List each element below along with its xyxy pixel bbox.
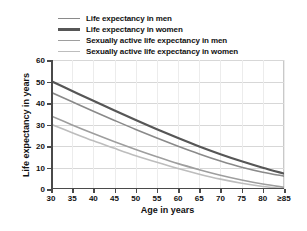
x-axis-tick-label: 70 bbox=[216, 194, 225, 203]
y-axis-tick-mark bbox=[47, 125, 51, 127]
vertical-gridline bbox=[284, 60, 285, 189]
y-axis-tick-label: 20 bbox=[36, 142, 45, 151]
x-axis-tick-mark bbox=[178, 189, 180, 193]
y-axis-tick-label: 60 bbox=[36, 56, 45, 65]
legend-item-sexually-active-life-expectancy-women: Sexually active life expectancy in women bbox=[58, 46, 273, 57]
x-axis-tick-label: 40 bbox=[89, 194, 98, 203]
legend-item-sexually-active-life-expectancy-men: Sexually active life expectancy in men bbox=[58, 35, 273, 46]
legend-item-label: Life expectancy in women bbox=[86, 25, 183, 34]
x-axis-tick-mark bbox=[115, 189, 117, 193]
x-axis-tick-mark bbox=[157, 189, 159, 193]
y-axis-tick-mark bbox=[47, 103, 51, 105]
y-axis-tick-label: 40 bbox=[36, 99, 45, 108]
x-axis-tick-mark bbox=[220, 189, 222, 193]
x-axis-tick-mark bbox=[242, 189, 244, 193]
y-axis-tick-label: 30 bbox=[36, 120, 45, 129]
legend-swatch-icon bbox=[58, 51, 80, 53]
x-axis-tick-label: 80 bbox=[258, 194, 267, 203]
y-axis-tick-mark bbox=[47, 60, 51, 62]
chart-curves bbox=[51, 60, 284, 189]
x-axis-tick-mark bbox=[284, 189, 286, 193]
x-axis-tick-label: 30 bbox=[47, 194, 56, 203]
legend-swatch-icon bbox=[58, 28, 80, 30]
x-axis-tick-label: 60 bbox=[174, 194, 183, 203]
y-axis-title: Life expectancy in years bbox=[20, 60, 32, 189]
legend-swatch-icon bbox=[58, 40, 80, 42]
x-axis-tick-mark bbox=[136, 189, 138, 193]
x-axis-tick-mark bbox=[93, 189, 95, 193]
x-axis-line bbox=[51, 188, 284, 190]
legend-swatch-icon bbox=[58, 18, 80, 20]
legend-item-label: Sexually active life expectancy in men bbox=[86, 36, 227, 45]
x-axis-tick-label: 35 bbox=[68, 194, 77, 203]
plot-wrapper: 0102030405060 3035404550556065707580≥85 bbox=[51, 60, 284, 189]
chart-figure: Life expectancy in men Life expectancy i… bbox=[0, 0, 307, 231]
x-axis-tick-label: 45 bbox=[110, 194, 119, 203]
x-axis-tick-mark bbox=[51, 189, 53, 193]
legend-item-label: Life expectancy in men bbox=[86, 14, 172, 23]
legend-item-label: Sexually active life expectancy in women bbox=[86, 47, 238, 56]
x-axis-tick-label: 75 bbox=[237, 194, 246, 203]
x-axis-tick-label: 50 bbox=[131, 194, 140, 203]
x-axis-tick-mark bbox=[199, 189, 201, 193]
series-line bbox=[51, 116, 284, 187]
x-axis-tick-label: 65 bbox=[195, 194, 204, 203]
x-axis-tick-label: ≥85 bbox=[277, 194, 290, 203]
y-axis-tick-mark bbox=[47, 146, 51, 148]
x-axis-title: Age in years bbox=[51, 205, 284, 215]
chart-legend: Life expectancy in men Life expectancy i… bbox=[58, 13, 273, 57]
y-axis-tick-label: 10 bbox=[36, 163, 45, 172]
y-axis-line bbox=[51, 60, 53, 189]
legend-item-life-expectancy-women: Life expectancy in women bbox=[58, 24, 273, 35]
y-axis-title-text: Life expectancy in years bbox=[21, 72, 31, 176]
y-axis-tick-label: 0 bbox=[41, 185, 45, 194]
x-axis-tick-label: 55 bbox=[152, 194, 161, 203]
y-axis-tick-mark bbox=[47, 82, 51, 84]
x-axis-tick-mark bbox=[263, 189, 265, 193]
y-axis-tick-mark bbox=[47, 168, 51, 170]
y-axis-tick-label: 50 bbox=[36, 77, 45, 86]
legend-item-life-expectancy-men: Life expectancy in men bbox=[58, 13, 273, 24]
x-axis-tick-mark bbox=[72, 189, 74, 193]
